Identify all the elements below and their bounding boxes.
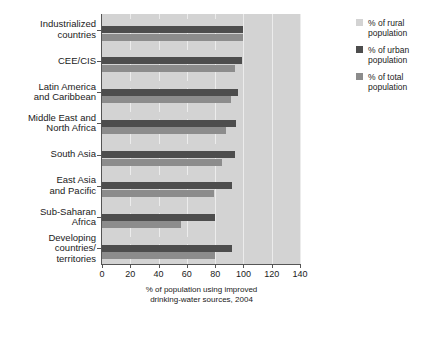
category-label: Industrializedcountries <box>2 19 96 40</box>
x-tick-label: 100 <box>228 269 258 279</box>
x-axis-title-line-2: drinking-water sources, 2004 <box>102 295 301 305</box>
bar <box>102 151 235 158</box>
category-label-line: countries <box>2 30 96 41</box>
chart-legend: % of ruralpopulation% of urbanpopulation… <box>356 18 430 99</box>
y-tick <box>97 186 101 187</box>
x-tick <box>300 264 301 268</box>
category-label: Middle East andNorth Africa <box>2 113 96 134</box>
x-tick <box>243 264 244 268</box>
bar <box>102 89 238 96</box>
category-label: South Asia <box>2 149 96 160</box>
x-tick-label: 120 <box>257 269 287 279</box>
bar <box>102 19 243 26</box>
category-label: Latin Americaand Caribbean <box>2 82 96 103</box>
bar <box>102 144 217 151</box>
y-tick <box>97 61 101 62</box>
bar-group <box>102 81 300 103</box>
bar <box>102 159 222 166</box>
legend-item[interactable]: % of totalpopulation <box>356 72 430 92</box>
category-label: Developingcountries/territories <box>2 233 96 265</box>
legend-item[interactable]: % of ruralpopulation <box>356 18 430 38</box>
x-tick-label: 140 <box>285 269 315 279</box>
x-tick <box>102 264 103 268</box>
bars-layer <box>102 14 300 264</box>
bar <box>102 221 181 228</box>
bar <box>102 206 161 213</box>
bar <box>102 26 243 33</box>
bar-group <box>102 50 300 72</box>
x-axis-title-line-1: % of population using improved <box>102 285 301 295</box>
bar <box>102 214 215 221</box>
y-tick <box>97 30 101 31</box>
category-label-line: CEE/CIS <box>2 56 96 67</box>
bar-group <box>102 206 300 228</box>
bar <box>102 252 215 259</box>
x-tick-label: 60 <box>172 269 202 279</box>
bar <box>102 245 232 252</box>
bar <box>102 190 214 197</box>
bar <box>102 50 231 57</box>
category-label-line: and Caribbean <box>2 92 96 103</box>
x-tick <box>272 264 273 268</box>
bar <box>102 112 212 119</box>
y-tick <box>97 123 101 124</box>
bar <box>102 57 242 64</box>
bar-group <box>102 144 300 166</box>
x-tick-label: 40 <box>144 269 174 279</box>
y-tick <box>97 155 101 156</box>
gridline-140 <box>300 14 301 264</box>
category-label-line: Africa <box>2 217 96 228</box>
bar <box>102 34 243 41</box>
legend-item[interactable]: % of urbanpopulation <box>356 45 430 65</box>
legend-label-line-2: population <box>368 28 430 38</box>
bar <box>102 81 205 88</box>
y-axis-line <box>101 14 102 265</box>
bar-group <box>102 237 300 259</box>
legend-swatch-icon <box>356 19 363 26</box>
category-label: CEE/CIS <box>2 56 96 67</box>
x-tick <box>187 264 188 268</box>
x-tick-label: 80 <box>200 269 230 279</box>
category-labels: IndustrializedcountriesCEE/CISLatin Amer… <box>0 0 96 346</box>
chart-figure: 020406080100120140 Industrializedcountri… <box>0 0 430 346</box>
legend-label-line-1: % of total <box>368 72 430 82</box>
bar-group <box>102 112 300 134</box>
category-label-line: North Africa <box>2 123 96 134</box>
legend-label-line-1: % of rural <box>368 18 430 28</box>
category-label-line: South Asia <box>2 149 96 160</box>
y-tick <box>97 248 101 249</box>
bar <box>102 96 231 103</box>
category-label-line: territories <box>2 254 96 265</box>
plot-area <box>102 14 300 264</box>
legend-swatch-icon <box>356 73 363 80</box>
bar <box>102 237 201 244</box>
x-axis-title: % of population using improved drinking-… <box>102 285 301 305</box>
y-tick <box>97 217 101 218</box>
bar <box>102 127 226 134</box>
legend-label-line-2: population <box>368 82 430 92</box>
bar-group <box>102 19 300 41</box>
legend-swatch-icon <box>356 46 363 53</box>
y-tick <box>97 92 101 93</box>
legend-label-line-2: population <box>368 55 430 65</box>
legend-label-line-1: % of urban <box>368 45 430 55</box>
category-label-line: and Pacific <box>2 186 96 197</box>
x-tick <box>130 264 131 268</box>
bar <box>102 65 235 72</box>
category-label: Sub-SaharanAfrica <box>2 207 96 228</box>
category-label: East Asiaand Pacific <box>2 175 96 196</box>
bar <box>102 182 232 189</box>
bar <box>102 120 236 127</box>
x-tick-label: 20 <box>115 269 145 279</box>
x-tick <box>215 264 216 268</box>
bar <box>102 175 200 182</box>
x-tick <box>159 264 160 268</box>
bar-group <box>102 175 300 197</box>
